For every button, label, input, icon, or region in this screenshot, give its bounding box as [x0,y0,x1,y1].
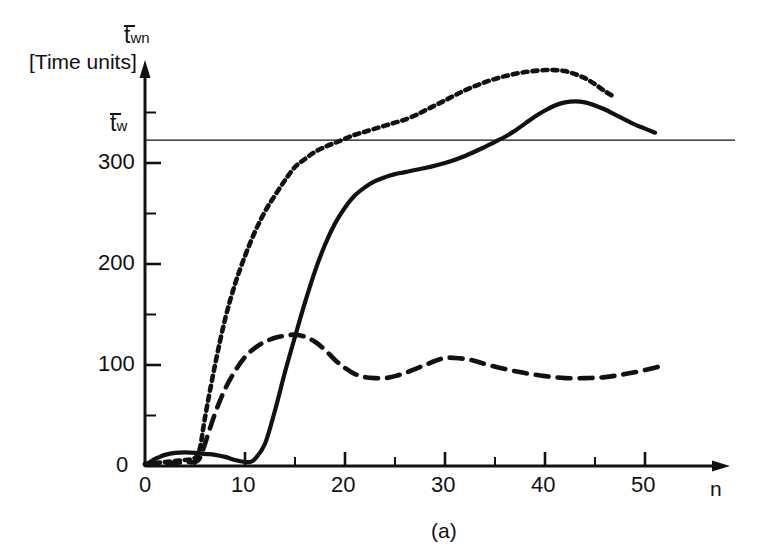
x-axis-arrow-icon [712,461,730,472]
x-axis-tick-label: 0 [139,472,151,498]
overbar-glyph [110,113,121,115]
y-axis-tick-label: 200 [98,250,135,276]
reference-line-label-symbol: tw [110,112,127,135]
y-axis-tick-label: 300 [98,149,135,175]
y-axis-tick-label: 100 [98,351,135,377]
reference-line-label: tw [110,112,127,135]
x-axis-tick-label: 10 [231,472,255,498]
y-axis-title-symbol: twn [124,24,150,48]
figure-caption: (a) [431,519,457,543]
x-axis-name: n [710,477,722,501]
overbar-glyph [124,25,135,27]
y-axis-unit-label: [Time units] [29,50,137,74]
x-axis-tick-label: 40 [531,472,555,498]
series-dotted-curve [145,70,613,464]
y-axis-title: twn [124,24,150,48]
x-axis-tick-label: 30 [431,472,455,498]
series-solid-curve [145,101,655,465]
x-axis-tick-label: 20 [331,472,355,498]
x-axis-tick-label: 50 [631,472,655,498]
series-dashed-curve [145,335,665,464]
y-axis-arrow-icon [140,60,151,78]
y-axis-tick-label: 0 [116,452,128,478]
y-axis-title-subscript: wn [130,29,149,46]
x-axis-ticks [195,452,645,466]
y-axis-ticks [145,113,161,416]
figure-chart-a: twn [Time units] tw 0100200300 010203040… [0,0,759,557]
reference-line-label-subscript: w [116,117,127,134]
